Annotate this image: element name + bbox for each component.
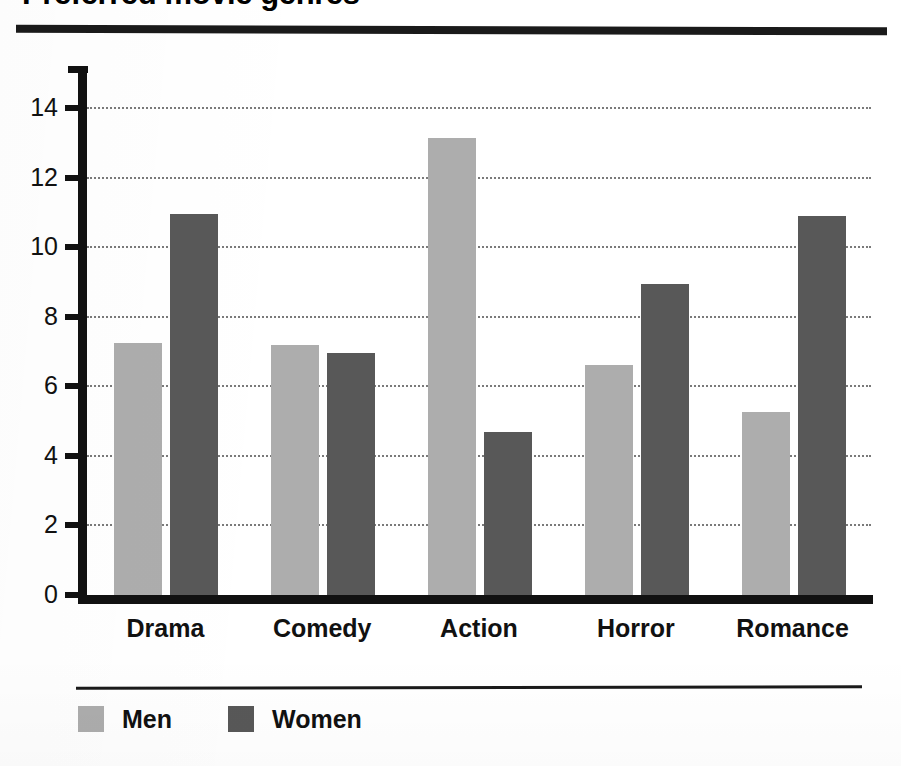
- bar-horror-men: [585, 365, 633, 595]
- legend-swatch-women-icon: [228, 706, 254, 732]
- bar-romance-men: [742, 412, 790, 595]
- y-tick-label-12: 12: [18, 165, 58, 190]
- x-axis-line: [78, 595, 873, 604]
- x-tick-label-horror: Horror: [557, 614, 714, 643]
- legend-divider: [76, 685, 862, 690]
- bar-drama-men: [114, 343, 162, 595]
- legend-swatch-men-icon: [78, 706, 104, 732]
- x-tick-label-action: Action: [401, 614, 558, 643]
- y-tick-label-6: 6: [18, 373, 58, 398]
- bar-romance-women: [798, 216, 846, 595]
- y-tick-mark-2: [65, 522, 80, 528]
- y-axis-line: [78, 66, 87, 601]
- y-tick-mark-10: [65, 244, 80, 250]
- x-tick-label-drama: Drama: [87, 614, 244, 643]
- bar-comedy-women: [327, 353, 375, 595]
- x-tick-label-comedy: Comedy: [244, 614, 401, 643]
- bar-comedy-men: [271, 345, 319, 595]
- y-tick-mark-12: [65, 175, 80, 181]
- x-tick-label-romance: Romance: [714, 614, 871, 643]
- y-tick-mark-6: [65, 383, 80, 389]
- y-tick-label-10: 10: [18, 234, 58, 259]
- legend-label-women: Women: [272, 707, 362, 732]
- y-tick-label-2: 2: [18, 512, 58, 537]
- y-tick-mark-8: [65, 314, 80, 320]
- y-tick-mark-0: [65, 592, 80, 598]
- bars-container: [87, 108, 871, 595]
- bar-chart-figure: Preferred movie genres 02468101214 Drama…: [0, 0, 901, 766]
- legend-label-men: Men: [122, 707, 172, 732]
- bar-horror-women: [641, 284, 689, 595]
- plot-region: 02468101214 DramaComedyActionHorrorRoman…: [0, 0, 901, 620]
- legend-item-men: Men: [78, 706, 172, 732]
- bar-action-women: [484, 432, 532, 595]
- bar-drama-women: [170, 214, 218, 595]
- y-tick-label-14: 14: [18, 95, 58, 120]
- chart-legend: Men Women: [78, 706, 362, 732]
- y-tick-mark-4: [65, 453, 80, 459]
- y-tick-mark-14: [65, 105, 80, 111]
- y-tick-label-8: 8: [18, 304, 58, 329]
- bar-action-men: [428, 138, 476, 595]
- y-tick-label-0: 0: [18, 582, 58, 607]
- legend-item-women: Women: [228, 706, 362, 732]
- y-tick-label-4: 4: [18, 443, 58, 468]
